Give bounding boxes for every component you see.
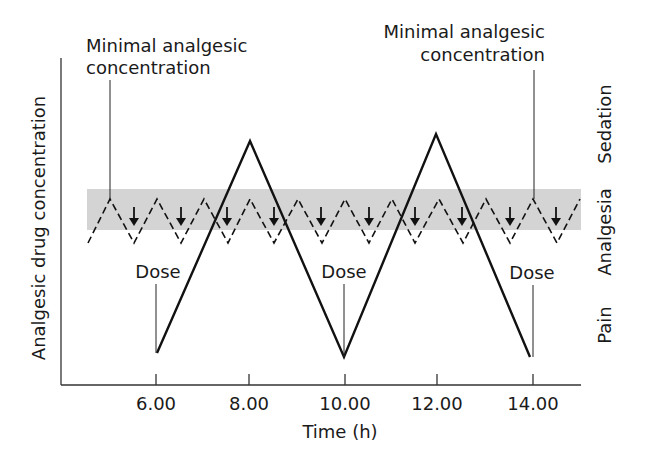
dose-label-3: Dose: [509, 262, 554, 283]
chart: Minimal analgesic concentration Minimal …: [0, 0, 646, 457]
mac-label-left-1: Minimal analgesic: [86, 35, 247, 56]
zone-label-sedation: Sedation: [594, 84, 615, 163]
tick-label: 14.00: [507, 393, 559, 414]
dose-label-1: Dose: [135, 261, 180, 282]
mac-label-right-2: concentration: [420, 44, 545, 65]
tick-label: 6.00: [136, 393, 176, 414]
x-axis-title: Time (h): [301, 421, 377, 442]
tick-label: 10.00: [319, 393, 371, 414]
tick-label: 8.00: [229, 393, 269, 414]
x-ticks: [156, 374, 533, 385]
mac-label-left-2: concentration: [86, 57, 211, 78]
analgesia-band: [87, 189, 581, 230]
zone-label-pain: Pain: [594, 306, 615, 344]
dose-label-2: Dose: [321, 261, 366, 282]
tick-label: 12.00: [411, 393, 463, 414]
y-axis-title: Analgesic drug concentration: [28, 96, 49, 360]
zone-label-analgesia: Analgesia: [594, 188, 615, 276]
mac-label-right-1: Minimal analgesic: [384, 21, 545, 42]
